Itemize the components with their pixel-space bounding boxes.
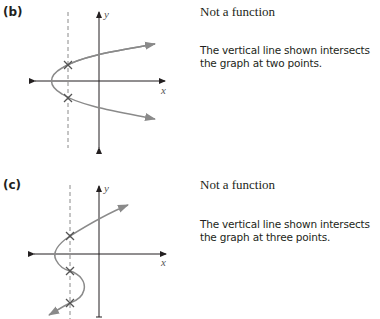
panel-title: Not a function	[200, 177, 275, 193]
intersection-marker	[66, 267, 74, 275]
graph-parabola-sideways: y x	[0, 0, 190, 160]
panel-title: Not a function	[200, 4, 275, 20]
panel-b: (b) y x Not a function The vertical line…	[0, 0, 380, 160]
y-axis-label: y	[103, 8, 109, 20]
panel-description: The vertical line shown intersects the g…	[200, 44, 380, 70]
graph-s-curve: y x	[0, 160, 190, 319]
panel-description: The vertical line shown intersects the g…	[200, 218, 380, 244]
x-axis-label: x	[160, 256, 166, 268]
intersection-marker	[66, 232, 74, 240]
x-axis-label: x	[160, 84, 166, 96]
panel-c: (c) y x Not a function	[0, 160, 380, 319]
curve	[49, 236, 84, 315]
y-axis-label: y	[103, 182, 109, 194]
